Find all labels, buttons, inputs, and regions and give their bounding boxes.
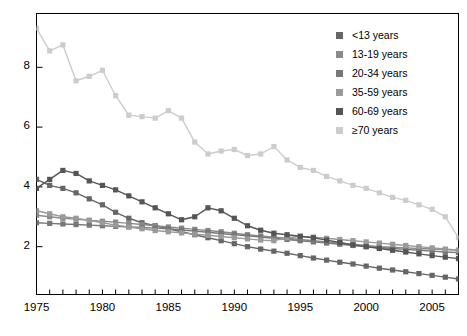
data-point-marker: [298, 165, 303, 170]
data-point-marker: [113, 210, 118, 215]
x-axis-tick-label: 1980: [82, 301, 122, 313]
legend-item-label: 13-19 years: [352, 48, 407, 60]
data-point-marker: [34, 208, 39, 213]
legend-item: ≥70 years: [336, 124, 398, 136]
data-point-marker: [390, 195, 395, 200]
data-point-marker: [179, 116, 184, 121]
data-point-marker: [153, 116, 158, 121]
data-point-marker: [403, 269, 408, 274]
data-point-marker: [47, 177, 52, 182]
data-point-marker: [377, 240, 382, 245]
x-axis-tick-label: 1990: [214, 301, 254, 313]
data-point-marker: [245, 223, 250, 228]
data-point-marker: [100, 202, 105, 207]
data-point-marker: [47, 221, 52, 226]
data-point-marker: [139, 199, 144, 204]
x-axis-tick-label: 2005: [412, 301, 452, 313]
data-point-marker: [192, 232, 197, 237]
data-point-marker: [60, 214, 65, 219]
data-point-marker: [100, 68, 105, 73]
data-point-marker: [337, 178, 342, 183]
data-point-marker: [456, 248, 461, 253]
data-point-marker: [60, 42, 65, 47]
data-point-marker: [364, 239, 369, 244]
data-point-marker: [126, 113, 131, 118]
y-axis-tick-label: 4: [8, 179, 30, 191]
data-point-marker: [113, 223, 118, 228]
data-point-marker: [416, 244, 421, 249]
data-point-marker: [390, 242, 395, 247]
data-point-marker: [350, 261, 355, 266]
legend-item-label: <13 years: [352, 29, 398, 41]
legend-item: 60-69 years: [336, 105, 407, 117]
data-point-marker: [298, 253, 303, 258]
legend-swatch-icon: [336, 108, 343, 115]
data-point-marker: [271, 144, 276, 149]
legend-item: 35-59 years: [336, 86, 407, 98]
data-point-marker: [100, 183, 105, 188]
data-point-marker: [337, 260, 342, 265]
chart-figure: 24681975198019851990199520002005 <13 yea…: [0, 0, 467, 336]
data-point-marker: [284, 232, 289, 237]
data-point-marker: [166, 108, 171, 113]
data-point-marker: [443, 275, 448, 280]
y-axis-tick-label: 8: [8, 59, 30, 71]
data-point-marker: [456, 276, 461, 281]
data-point-marker: [232, 216, 237, 221]
data-point-marker: [416, 271, 421, 276]
legend-swatch-icon: [336, 51, 343, 58]
data-point-marker: [153, 228, 158, 233]
data-point-marker: [443, 214, 448, 219]
data-point-marker: [87, 74, 92, 79]
data-point-marker: [205, 205, 210, 210]
data-point-marker: [403, 249, 408, 254]
data-point-marker: [284, 251, 289, 256]
data-point-marker: [139, 114, 144, 119]
series-1: [34, 177, 461, 282]
data-point-marker: [192, 214, 197, 219]
data-point-marker: [87, 223, 92, 228]
data-point-marker: [34, 213, 39, 218]
legend-item-label: 60-69 years: [352, 105, 407, 117]
data-point-marker: [126, 216, 131, 221]
data-point-marker: [311, 255, 316, 260]
data-point-marker: [377, 190, 382, 195]
data-point-marker: [350, 242, 355, 247]
data-point-marker: [443, 255, 448, 260]
x-axis-tick-label: 1975: [17, 301, 57, 313]
data-point-marker: [324, 174, 329, 179]
data-point-marker: [232, 235, 237, 240]
data-point-marker: [416, 251, 421, 256]
data-point-marker: [430, 207, 435, 212]
data-point-marker: [166, 211, 171, 216]
data-point-marker: [192, 139, 197, 144]
data-point-marker: [73, 171, 78, 176]
data-point-marker: [258, 246, 263, 251]
data-point-marker: [364, 244, 369, 249]
data-point-marker: [271, 249, 276, 254]
y-axis-tick-label: 6: [8, 119, 30, 131]
data-point-marker: [34, 186, 39, 191]
legend-item: 20-34 years: [336, 67, 407, 79]
legend-item: 13-19 years: [336, 48, 407, 60]
data-point-marker: [456, 235, 461, 240]
y-axis-tick-label: 2: [8, 239, 30, 251]
data-point-marker: [87, 196, 92, 201]
legend-swatch-icon: [336, 89, 343, 96]
data-point-marker: [443, 246, 448, 251]
legend-swatch-icon: [336, 32, 343, 39]
data-point-marker: [166, 229, 171, 234]
data-point-marker: [139, 226, 144, 231]
data-point-marker: [390, 248, 395, 253]
x-axis-ticks: [37, 290, 459, 295]
data-point-marker: [377, 266, 382, 271]
data-point-marker: [245, 236, 250, 241]
data-point-marker: [179, 230, 184, 235]
data-point-marker: [337, 240, 342, 245]
data-point-marker: [34, 177, 39, 182]
x-axis-tick-label: 1995: [280, 301, 320, 313]
legend-swatch-icon: [336, 127, 343, 134]
data-point-marker: [47, 183, 52, 188]
legend-item-label: 20-34 years: [352, 67, 407, 79]
data-point-marker: [47, 211, 52, 216]
